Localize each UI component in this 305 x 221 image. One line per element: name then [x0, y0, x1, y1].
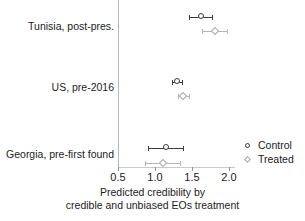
- marker-treated-diamond: [179, 91, 187, 99]
- ci-cap-high: [189, 94, 190, 99]
- marker-control-circle: [163, 144, 169, 150]
- legend-label-control: Control: [258, 138, 292, 152]
- legend-key-diamond-icon: [245, 152, 258, 166]
- marker-control-circle: [174, 78, 180, 84]
- ci-cap-high: [227, 29, 228, 34]
- legend-key-circle-icon: [245, 138, 258, 152]
- xtick-label-2: 1.5: [177, 171, 207, 184]
- ci-cap-low: [189, 15, 190, 20]
- legend-item-control[interactable]: Control: [245, 138, 294, 152]
- marker-treated-diamond: [210, 26, 218, 34]
- ci-cap-low: [148, 146, 149, 151]
- ci-cap-low: [172, 80, 173, 85]
- y-axis-label-georgia: Georgia, pre-first found: [0, 148, 114, 160]
- ci-cap-low: [145, 161, 146, 166]
- xtick-label-0: 0.5: [103, 171, 133, 184]
- ci-cap-high: [183, 146, 184, 151]
- x-axis-title-line1: Predicted credibility by: [0, 186, 305, 199]
- y-axis-label-tunisia: Tunisia, post-pres.: [0, 20, 114, 32]
- y-axis-label-us: US, pre-2016: [0, 81, 114, 93]
- marker-control-circle: [198, 13, 204, 19]
- xtick-label-3: 2.0: [214, 171, 244, 184]
- ci-cap-high: [180, 161, 181, 166]
- ci-cap-low: [202, 29, 203, 34]
- ci-cap-high: [182, 80, 183, 85]
- forest-plot-figure: Tunisia, post-pres. US, pre-2016 Georgia…: [0, 0, 305, 221]
- x-axis-title-line2: credible and unbiased EOs treatment: [0, 199, 305, 212]
- legend-item-treated[interactable]: Treated: [245, 152, 294, 166]
- xtick-label-1: 1.0: [140, 171, 170, 184]
- marker-treated-diamond: [158, 158, 166, 166]
- legend-label-treated: Treated: [258, 152, 294, 166]
- legend: Control Treated: [245, 138, 294, 166]
- ci-cap-high: [212, 15, 213, 20]
- x-axis-line: [118, 167, 235, 168]
- x-axis-title: Predicted credibility by credible and un…: [0, 186, 305, 211]
